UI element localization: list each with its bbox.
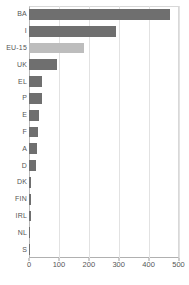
bar[interactable] (29, 211, 31, 222)
y-axis-label: A (0, 145, 27, 152)
bar-row (29, 93, 179, 104)
gridline (179, 6, 180, 258)
bar-row (29, 59, 179, 70)
bar[interactable] (29, 177, 31, 188)
bar[interactable] (29, 76, 42, 87)
x-axis-tick-mark (148, 258, 149, 261)
bar-row (29, 9, 179, 20)
y-axis-label: DK (0, 178, 27, 185)
x-axis-tick-label: 300 (112, 261, 125, 269)
x-axis-tick-mark (29, 258, 30, 261)
bar-row (29, 194, 179, 205)
x-axis-tick-mark (88, 258, 89, 261)
y-axis-label: EU-15 (0, 44, 27, 51)
y-axis-labels: BA I EU-15 UK EL P E F A D DK FIN IRL NL… (0, 6, 27, 258)
y-axis-label: I (0, 27, 27, 34)
bar[interactable] (29, 160, 36, 171)
bar-row (29, 211, 179, 222)
bar-row (29, 76, 179, 87)
x-axis-tick-label: 400 (142, 261, 155, 269)
y-axis-label: F (0, 128, 27, 135)
bar-row (29, 177, 179, 188)
bar[interactable] (29, 227, 30, 238)
y-axis-label: IRL (0, 212, 27, 219)
y-axis-label: P (0, 94, 27, 101)
bar-row (29, 127, 179, 138)
bar-row (29, 110, 179, 121)
bar-chart: BA I EU-15 UK EL P E F A D DK FIN IRL NL… (0, 0, 189, 285)
x-axis-tick-label: 200 (83, 261, 96, 269)
bar-row (29, 227, 179, 238)
y-axis-label: BA (0, 10, 27, 17)
bar[interactable] (29, 110, 39, 121)
y-axis-label: S (0, 246, 27, 253)
bar-row (29, 160, 179, 171)
x-axis-tick-mark (118, 258, 119, 261)
x-axis-labels: 0 100 200 300 400 500 (0, 261, 189, 277)
bar[interactable] (29, 43, 84, 54)
y-axis-label: E (0, 111, 27, 118)
bar-row (29, 26, 179, 37)
bar[interactable] (29, 143, 37, 154)
bar-row (29, 244, 179, 255)
x-axis-tick-label: 100 (53, 261, 66, 269)
y-axis-label: UK (0, 61, 27, 68)
bar[interactable] (29, 244, 30, 255)
bar[interactable] (29, 194, 31, 205)
bar[interactable] (29, 127, 38, 138)
bar[interactable] (29, 26, 116, 37)
y-axis-label: NL (0, 229, 27, 236)
bar-row (29, 43, 179, 54)
bar[interactable] (29, 59, 57, 70)
x-axis-tick-label: 0 (27, 261, 31, 269)
y-axis-label: FIN (0, 195, 27, 202)
plot-area (29, 6, 179, 258)
bar[interactable] (29, 9, 170, 20)
bar-series (29, 6, 179, 258)
bar-row (29, 143, 179, 154)
x-axis-tick-label: 500 (172, 261, 185, 269)
x-axis-tick-mark (178, 258, 179, 261)
x-axis-tick-mark (58, 258, 59, 261)
bar[interactable] (29, 93, 42, 104)
y-axis-label: EL (0, 78, 27, 85)
y-axis-label: D (0, 162, 27, 169)
